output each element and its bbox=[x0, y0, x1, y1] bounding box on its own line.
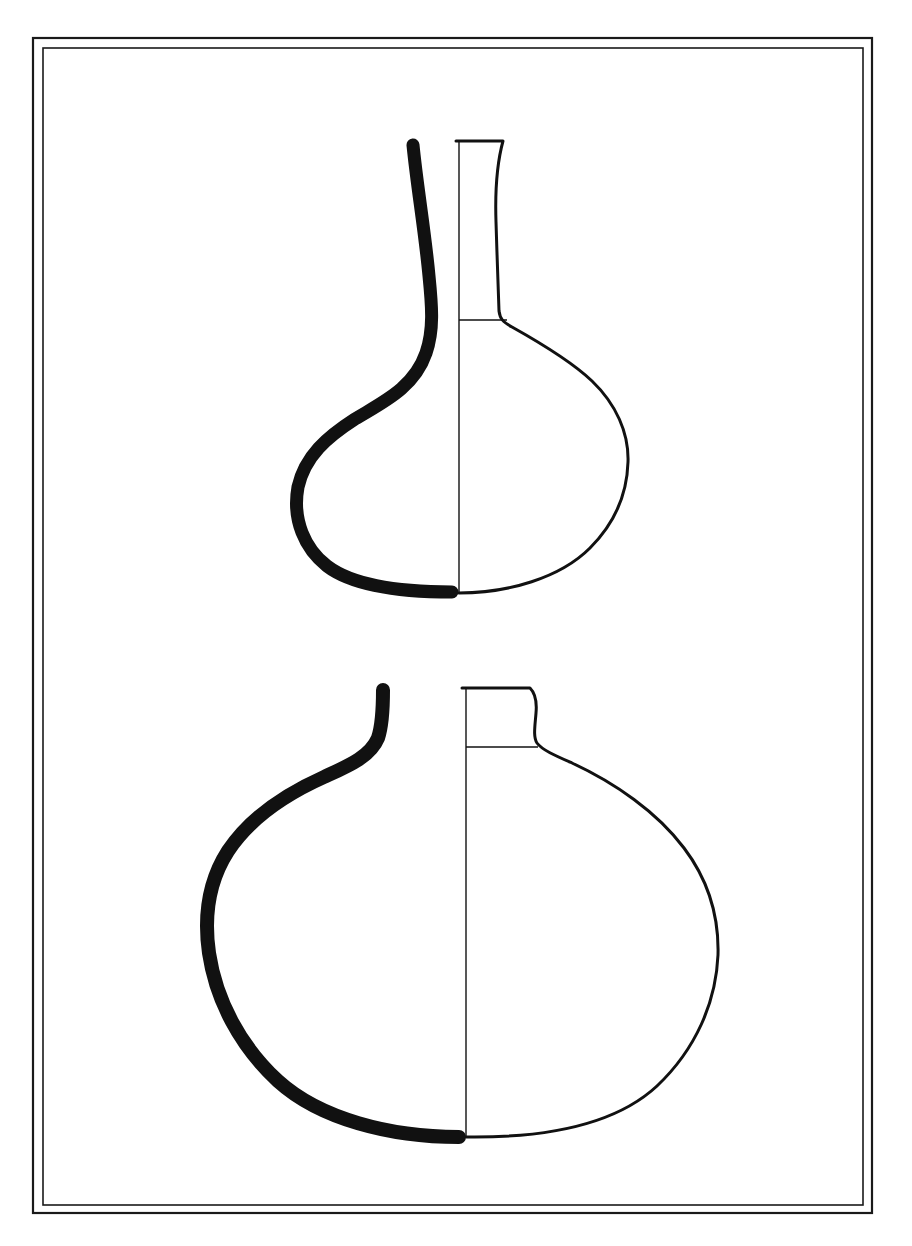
plate-background bbox=[0, 0, 912, 1246]
illustration-plate bbox=[0, 0, 912, 1246]
vessel-profile-drawing bbox=[0, 0, 912, 1246]
